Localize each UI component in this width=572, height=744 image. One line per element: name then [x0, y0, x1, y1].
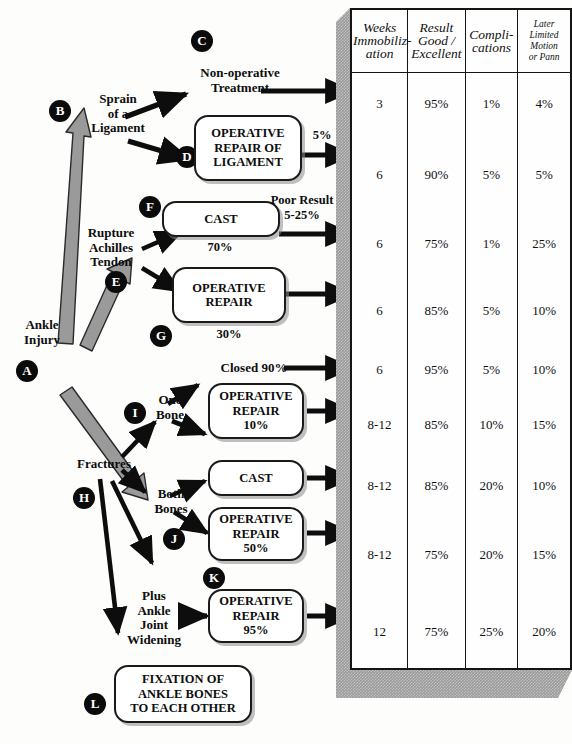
table-header-weeks: Weeks Immobiliz- ation	[352, 10, 408, 72]
box-operative-repair-one-bone: OPERATIVE REPAIR 10%	[208, 383, 304, 439]
node-closed-90pct: Closed 90%	[199, 361, 309, 376]
cell-later: 20%	[518, 596, 570, 668]
badge-j: J	[163, 528, 185, 550]
cell-complications: 25%	[465, 596, 517, 668]
cell-result: 95%	[408, 72, 466, 136]
cell-result: 85%	[408, 274, 466, 348]
cell-result: 75%	[408, 596, 466, 668]
cell-complications: 5%	[465, 136, 517, 214]
table-row: 6 75% 1% 25%	[352, 214, 570, 274]
table-row: 8-12 85% 20% 10%	[352, 458, 570, 513]
annot-poor-result: Poor Result 5-25%	[254, 193, 350, 222]
cell-later: 4%	[518, 72, 570, 136]
node-plus-ankle-joint-widening: Plus Ankle Joint Widening	[120, 589, 188, 647]
box-cast-both-bones: CAST	[208, 460, 304, 496]
badge-i: I	[124, 402, 146, 424]
cell-later: 10%	[518, 274, 570, 348]
cell-later: 5%	[518, 136, 570, 214]
table-row: 6 95% 5% 10%	[352, 348, 570, 391]
box-operative-repair-achilles: OPERATIVE REPAIR	[172, 267, 286, 323]
badge-c: C	[191, 30, 213, 52]
table-header-result: Result Good / Excellent	[408, 10, 466, 72]
cell-later: 25%	[518, 214, 570, 274]
trunk-arrow-to-rupture	[80, 258, 132, 351]
annot-operative-30pct: 30%	[189, 327, 269, 342]
table-header-later-limited: Later Limited Motion or Pann	[518, 10, 570, 72]
table-row: 6 90% 5% 5%	[352, 136, 570, 214]
table-row: 8-12 85% 10% 15%	[352, 391, 570, 458]
box-label: OPERATIVE REPAIR	[188, 281, 269, 310]
box-label: OPERATIVE REPAIR 10%	[215, 389, 296, 433]
table-row: 6 85% 5% 10%	[352, 274, 570, 348]
annot-cast-70pct: 70%	[180, 240, 260, 255]
cell-later: 10%	[518, 458, 570, 513]
cell-result: 85%	[408, 458, 466, 513]
cell-result: 90%	[408, 136, 466, 214]
node-fractures: Fractures	[64, 457, 144, 472]
box-label: OPERATIVE REPAIR OF LIGAMENT	[207, 126, 288, 170]
arrow-one-bone-to-operative-repair	[172, 421, 205, 434]
cell-complications: 1%	[465, 214, 517, 274]
cell-complications: 5%	[465, 274, 517, 348]
box-label: CAST	[200, 212, 241, 227]
box-fixation-of-ankle-bones: FIXATION OF ANKLE BONES TO EACH OTHER	[114, 665, 252, 723]
node-one-bone: One Bone	[146, 393, 194, 422]
cell-complications: 20%	[465, 458, 517, 513]
cell-complications: 5%	[465, 348, 517, 391]
cell-weeks: 3	[352, 72, 408, 136]
cell-later: 15%	[518, 391, 570, 458]
cell-later: 15%	[518, 513, 570, 596]
arrow-fractures-to-one-bone	[122, 422, 155, 457]
box-operative-repair-ankle-widening: OPERATIVE REPAIR 95%	[208, 589, 304, 643]
cell-result: 75%	[408, 214, 466, 274]
badge-h: H	[73, 487, 95, 509]
cell-weeks: 6	[352, 214, 408, 274]
box-label: CAST	[235, 471, 276, 486]
cell-result: 85%	[408, 391, 466, 458]
cell-weeks: 8-12	[352, 513, 408, 596]
cell-later: 10%	[518, 348, 570, 391]
cell-weeks: 8-12	[352, 391, 408, 458]
cell-weeks: 12	[352, 596, 408, 668]
box-operative-repair-of-ligament: OPERATIVE REPAIR OF LIGAMENT	[194, 115, 302, 181]
node-rupture-achilles-tendon: Rupture Achilles Tendon	[75, 226, 147, 270]
cell-weeks: 6	[352, 348, 408, 391]
box-label: OPERATIVE REPAIR 95%	[215, 594, 296, 638]
table-row: 3 95% 1% 4%	[352, 72, 570, 136]
badge-k: K	[203, 567, 225, 589]
cell-result: 95%	[408, 348, 466, 391]
badge-b: B	[49, 100, 71, 122]
results-table: Weeks Immobiliz- ation Result Good / Exc…	[350, 8, 572, 670]
cell-weeks: 6	[352, 136, 408, 214]
arrow-fractures-to-fixation	[100, 479, 118, 633]
cell-complications: 10%	[465, 391, 517, 458]
badge-f: F	[139, 196, 161, 218]
cell-weeks: 8-12	[352, 458, 408, 513]
badge-a: A	[16, 360, 38, 382]
table-header-complications: Compli- cations	[465, 10, 517, 72]
table-row: 12 75% 25% 20%	[352, 596, 570, 668]
cell-result: 75%	[408, 513, 466, 596]
badge-e: E	[105, 271, 127, 293]
node-ankle-injury: Ankle Injury	[4, 318, 80, 347]
box-operative-repair-both-bones: OPERATIVE REPAIR 50%	[208, 507, 304, 561]
node-both-bones: Both Bones	[144, 487, 198, 516]
cell-complications: 1%	[465, 72, 517, 136]
cell-complications: 20%	[465, 513, 517, 596]
badge-l: L	[84, 693, 106, 715]
node-sprain-of-a-ligament: Sprain of a Ligament	[76, 92, 160, 136]
node-non-operative-treatment: Non-operative Treatment	[180, 66, 300, 95]
arrow-fractures-to-both-bones	[122, 470, 145, 492]
box-label: OPERATIVE REPAIR 50%	[215, 512, 296, 556]
diagram-page: A Ankle Injury B Sprain of a Ligament C …	[0, 0, 572, 744]
box-label: FIXATION OF ANKLE BONES TO EACH OTHER	[126, 672, 239, 716]
table-row: 8-12 75% 20% 15%	[352, 513, 570, 596]
badge-g: G	[150, 325, 172, 347]
cell-weeks: 6	[352, 274, 408, 348]
